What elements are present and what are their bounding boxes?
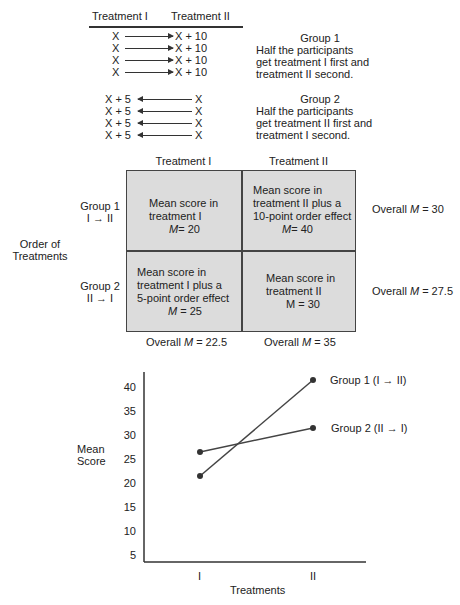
- chart-plot: [0, 0, 460, 605]
- y-tick: 10: [116, 519, 136, 543]
- y-axis-label: Mean Score: [77, 443, 106, 467]
- y-tick: 15: [116, 495, 136, 519]
- legend-group1: Group 1 (I → II): [330, 374, 406, 386]
- x-tick-I: I: [198, 570, 201, 582]
- y-tick: 35: [116, 399, 136, 423]
- y-tick: 40: [116, 375, 136, 399]
- y-tick: 30: [116, 423, 136, 447]
- data-point: [197, 449, 203, 455]
- y-tick: 20: [116, 471, 136, 495]
- x-axis-label: Treatments: [230, 584, 285, 596]
- series-group1-line: [200, 380, 313, 476]
- series-group2-line: [200, 428, 313, 452]
- y-tick-labels: 40 35 30 25 20 15 10 5: [116, 375, 136, 567]
- y-tick: 5: [116, 543, 136, 567]
- axis-label-line: Mean: [77, 443, 106, 455]
- data-point: [310, 425, 316, 431]
- data-point: [197, 473, 203, 479]
- x-tick-II: II: [310, 570, 316, 582]
- axis-label-line: Score: [77, 455, 106, 467]
- y-tick: 25: [116, 447, 136, 471]
- legend-group2: Group 2 (II → I): [331, 422, 407, 434]
- data-point: [310, 377, 316, 383]
